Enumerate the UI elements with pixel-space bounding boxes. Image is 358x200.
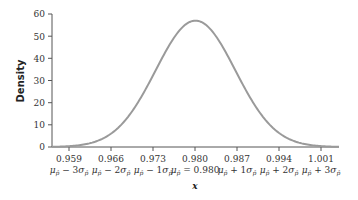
x-tick-label: 0.973 bbox=[140, 154, 166, 164]
y-tick-label: 40 bbox=[34, 54, 46, 64]
sigma-label: μp̂ − 3σp̂ bbox=[50, 165, 89, 177]
sigma-label: μp̂ − 2σp̂ bbox=[92, 165, 131, 177]
sigma-label: μp̂ = 0.980 bbox=[171, 165, 220, 177]
y-tick-label: 10 bbox=[34, 120, 46, 130]
y-tick-label: 50 bbox=[34, 32, 46, 42]
x-tick-label: 0.987 bbox=[224, 154, 250, 164]
sigma-label: μp̂ + 3σp̂ bbox=[302, 165, 341, 177]
y-ticks: 0 10 20 30 40 50 60 bbox=[34, 9, 52, 152]
x-tick-label: 0.980 bbox=[182, 154, 208, 164]
x-tick-label: 0.994 bbox=[266, 154, 292, 164]
sigma-label: μp̂ + 2σp̂ bbox=[260, 165, 299, 177]
x-tick-label: 0.966 bbox=[98, 154, 124, 164]
sigma-label: μp̂ + 1σp̂ bbox=[218, 165, 257, 177]
sigma-label: μp̂ − 1σp̂ bbox=[134, 165, 173, 177]
density-curve bbox=[52, 21, 339, 147]
x-tick-label: 1.001 bbox=[308, 154, 334, 164]
y-tick-label: 20 bbox=[34, 98, 46, 108]
y-axis-title: Density bbox=[15, 59, 26, 102]
y-tick-label: 60 bbox=[34, 9, 46, 19]
density-chart: 0 10 20 30 40 50 60 Density 0.959 0.966 … bbox=[0, 0, 358, 200]
x-ticks: 0.959 0.966 0.973 0.980 0.987 0.994 1.00… bbox=[56, 147, 334, 164]
y-tick-label: 0 bbox=[39, 142, 45, 152]
y-tick-label: 30 bbox=[34, 76, 46, 86]
x-axis-title: x bbox=[191, 181, 198, 191]
x-sigma-labels: μp̂ − 3σp̂ μp̂ − 2σp̂ μp̂ − 1σp̂ μp̂ = 0… bbox=[50, 165, 341, 177]
x-tick-label: 0.959 bbox=[56, 154, 82, 164]
